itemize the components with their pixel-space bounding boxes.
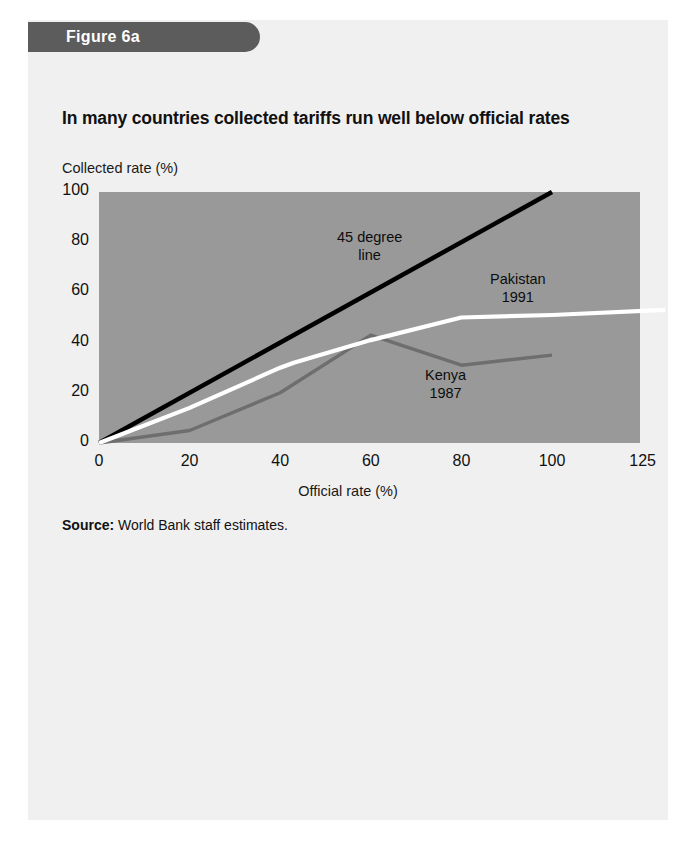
x-tick-label: 100 [527, 452, 577, 470]
annotation-kenya-line1: Kenya [425, 366, 466, 384]
x-tick-label: 20 [165, 452, 215, 470]
y-tick-label: 60 [49, 281, 89, 299]
annotation-45-line1: 45 degree [337, 228, 402, 246]
y-tick-label: 20 [49, 382, 89, 400]
annotation-45-line2: line [337, 246, 402, 264]
annotation-45-degree-line: 45 degree line [337, 228, 402, 264]
y-tick-label: 100 [49, 181, 89, 199]
chart-svg [0, 0, 696, 851]
x-axis-label: Official rate (%) [0, 483, 696, 499]
annotation-pakistan-line2: 1991 [490, 288, 546, 306]
y-tick-label: 80 [49, 231, 89, 249]
y-tick-label: 0 [49, 432, 89, 450]
x-tick-label: 0 [74, 452, 124, 470]
source-note: Source: World Bank staff estimates. [62, 517, 288, 533]
x-tick-label: 125 [618, 452, 668, 470]
x-tick-label: 80 [436, 452, 486, 470]
annotation-kenya-line2: 1987 [425, 384, 466, 402]
x-tick-label: 60 [346, 452, 396, 470]
annotation-pakistan: Pakistan 1991 [490, 270, 546, 306]
y-tick-label: 40 [49, 332, 89, 350]
chart-plot-area: 45 degree line Pakistan 1991 Kenya 1987 … [0, 0, 696, 851]
source-text: World Bank staff estimates. [114, 517, 288, 533]
annotation-pakistan-line1: Pakistan [490, 270, 546, 288]
annotation-kenya: Kenya 1987 [425, 366, 466, 402]
x-tick-label: 40 [255, 452, 305, 470]
source-label: Source: [62, 517, 114, 533]
